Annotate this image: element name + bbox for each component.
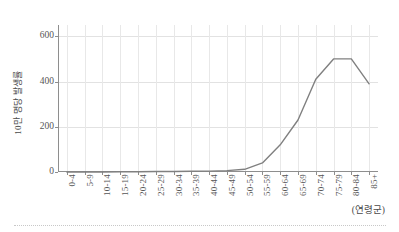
series-line-0 xyxy=(67,59,369,172)
x-tick-label-text: 85+ xyxy=(369,174,379,189)
y-tick-label-600: 600 xyxy=(26,31,54,41)
y-tick-label-200: 200 xyxy=(26,122,54,132)
x-axis-tick-labels: 0-45-910-1415-1920-2425-2930-3435-3940-4… xyxy=(58,174,378,214)
y-axis-title: 10만 명당 발생률 xyxy=(9,36,25,168)
chart-figure: 10만 명당 발생률 0200400600 0-45-910-1415-1920… xyxy=(0,0,399,232)
plot-area xyxy=(58,25,378,172)
y-tick-mark-0 xyxy=(55,172,58,173)
x-axis-note: (연령군) xyxy=(352,202,385,216)
data-series-line xyxy=(58,25,378,172)
bottom-divider xyxy=(14,225,386,226)
y-axis-title-text: 10만 명당 발생률 xyxy=(11,70,24,135)
y-tick-label-400: 400 xyxy=(26,77,54,87)
